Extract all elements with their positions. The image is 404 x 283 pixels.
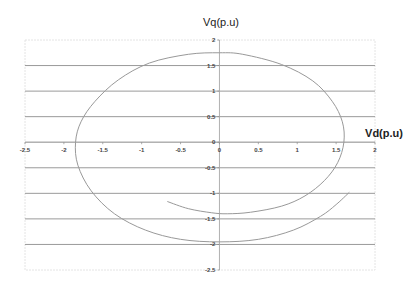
x-axis-title: Vd(p.u) bbox=[365, 127, 403, 139]
x-tick-label: -1.5 bbox=[98, 147, 109, 153]
x-tick-label: 2 bbox=[373, 147, 377, 153]
y-tick-label: 0.5 bbox=[207, 114, 216, 120]
x-tick-label: -2 bbox=[61, 147, 67, 153]
x-tick-label: -0.5 bbox=[175, 147, 186, 153]
y-tick-label: -1.5 bbox=[205, 216, 216, 222]
x-tick-label: -2.5 bbox=[20, 147, 31, 153]
y-tick-label: 1.5 bbox=[207, 63, 216, 69]
chart: -2.5-2-1.5-1-0.500.511.52 21.510.50-0.5-… bbox=[0, 0, 404, 283]
plot-area bbox=[25, 40, 375, 270]
x-tick-label: 1.5 bbox=[332, 147, 341, 153]
x-tick-label: -1 bbox=[139, 147, 145, 153]
y-tick-label: -2.5 bbox=[205, 267, 216, 273]
y-tick-label: -0.5 bbox=[205, 165, 216, 171]
x-tick-label: 0.5 bbox=[254, 147, 263, 153]
y-tick-label: -1 bbox=[210, 190, 216, 196]
y-axis-title: Vq(p.u) bbox=[203, 16, 239, 28]
